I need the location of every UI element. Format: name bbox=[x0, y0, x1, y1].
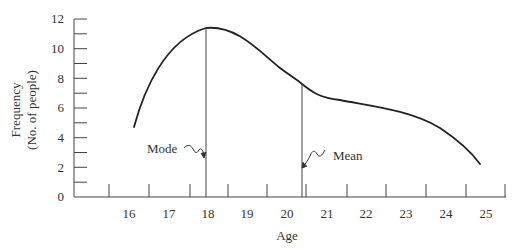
svg-text:4: 4 bbox=[58, 130, 65, 145]
x-axis bbox=[74, 184, 506, 197]
y-axis-title: Frequency (No. of people) bbox=[8, 70, 39, 150]
y-axis bbox=[74, 19, 87, 197]
svg-text:24: 24 bbox=[440, 206, 454, 221]
svg-text:12: 12 bbox=[51, 11, 64, 26]
svg-text:22: 22 bbox=[360, 206, 373, 221]
x-tick-labels: 16 17 18 19 20 21 22 23 24 25 bbox=[123, 206, 493, 221]
frequency-chart: Frequency (No. of people) 0 2 4 6 8 10 1… bbox=[0, 0, 519, 252]
mode-label: Mode bbox=[147, 141, 178, 156]
svg-text:25: 25 bbox=[480, 206, 493, 221]
y-tick-labels: 0 2 4 6 8 10 12 bbox=[51, 11, 65, 204]
x-axis-title: Age bbox=[276, 228, 298, 243]
distribution-curve bbox=[134, 28, 480, 164]
mean-arrow-icon bbox=[302, 150, 325, 168]
svg-text:10: 10 bbox=[51, 41, 64, 56]
svg-text:16: 16 bbox=[123, 206, 137, 221]
svg-text:21: 21 bbox=[321, 206, 334, 221]
svg-text:19: 19 bbox=[241, 206, 254, 221]
svg-text:23: 23 bbox=[400, 206, 413, 221]
svg-text:Frequency: Frequency bbox=[8, 82, 23, 137]
svg-text:18: 18 bbox=[202, 206, 215, 221]
mean-label: Mean bbox=[333, 148, 363, 163]
svg-text:0: 0 bbox=[58, 189, 65, 204]
svg-text:20: 20 bbox=[281, 206, 294, 221]
svg-text:(No. of people): (No. of people) bbox=[24, 70, 39, 150]
svg-text:17: 17 bbox=[163, 206, 177, 221]
svg-text:6: 6 bbox=[58, 100, 65, 115]
mode-arrow-icon bbox=[184, 145, 206, 158]
svg-text:2: 2 bbox=[58, 160, 65, 175]
svg-text:8: 8 bbox=[58, 71, 65, 86]
